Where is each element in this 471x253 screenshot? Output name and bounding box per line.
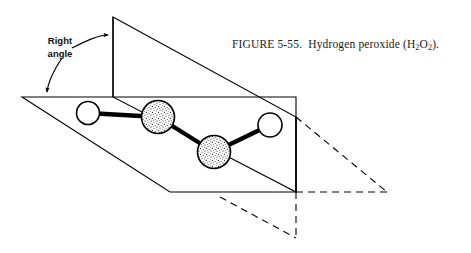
atom-oxygen-right [198, 136, 231, 169]
right-angle-label-line1: Right [28, 34, 92, 47]
figure-caption: FIGURE 5-55. Hydrogen peroxide (H2O2). [232, 38, 468, 52]
dashed-upper-diagonal [296, 117, 387, 192]
caption-oxygen-symbol: O [420, 38, 428, 50]
atom-oxygen-left [142, 101, 175, 134]
caption-tail: ). [432, 38, 439, 50]
atom-hydrogen-left [77, 102, 100, 125]
leader-arrow-to-base-plane [47, 58, 62, 92]
right-angle-label: Right angle [28, 34, 92, 60]
right-angle-label-line2: angle [28, 47, 92, 60]
dashed-lower-diagonal [220, 197, 296, 238]
molecule-bonds [88, 113, 270, 152]
caption-title: Hydrogen peroxide (H [308, 38, 415, 50]
caption-number: FIGURE 5-55. [232, 38, 302, 50]
figure-container: Right angle FIGURE 5-55. Hydrogen peroxi… [0, 0, 471, 253]
atom-hydrogen-right [258, 113, 282, 137]
